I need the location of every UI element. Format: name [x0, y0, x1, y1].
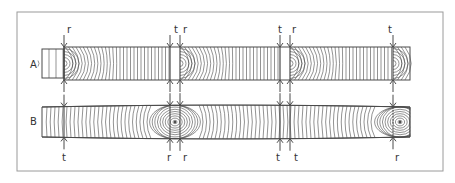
joint-label-r: r: [183, 24, 188, 35]
strip-a-stub: [42, 49, 64, 78]
joint-label-r: r: [395, 152, 400, 163]
wood-joint-diagram: A B rtrtrttrrttr: [0, 0, 455, 183]
joint-label-t: t: [174, 24, 178, 35]
joint-label-r: r: [167, 152, 172, 163]
strip-b: B: [30, 92, 431, 151]
joint-label-t: t: [276, 152, 280, 163]
strip-a-body: [64, 47, 410, 80]
joint-label-t: t: [278, 24, 282, 35]
joint-label-r: r: [183, 152, 188, 163]
strip-a: A: [30, 35, 411, 92]
joint-label-t: t: [388, 24, 392, 35]
joint-label-t: t: [62, 152, 66, 163]
strip-a-label: A: [30, 59, 37, 70]
joint-label-r: r: [292, 24, 297, 35]
joint-label-r: r: [67, 24, 72, 35]
strip-b-label: B: [30, 116, 37, 127]
pith: [174, 121, 176, 123]
pith: [399, 121, 401, 123]
joint-label-t: t: [294, 152, 298, 163]
